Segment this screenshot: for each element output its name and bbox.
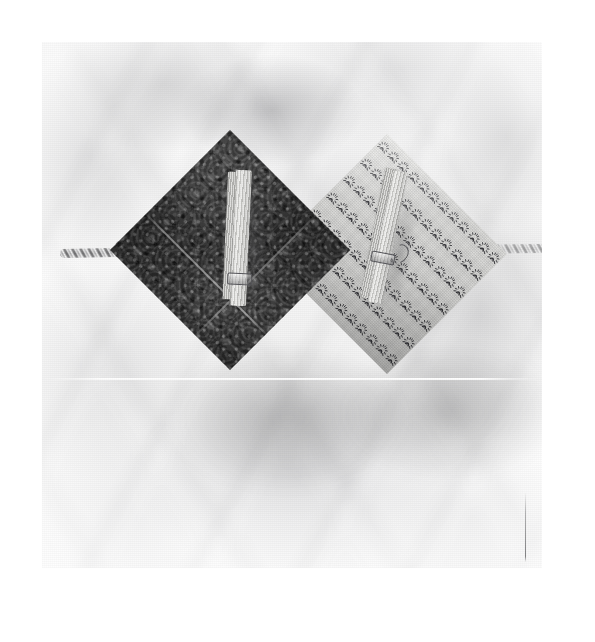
screenshot-canvas bbox=[0, 0, 595, 642]
clothespin-left[interactable] bbox=[220, 169, 260, 310]
photograph-plate bbox=[42, 42, 542, 568]
light-swatch-shadow bbox=[332, 342, 542, 482]
scan-seam-vertical bbox=[525, 492, 526, 562]
